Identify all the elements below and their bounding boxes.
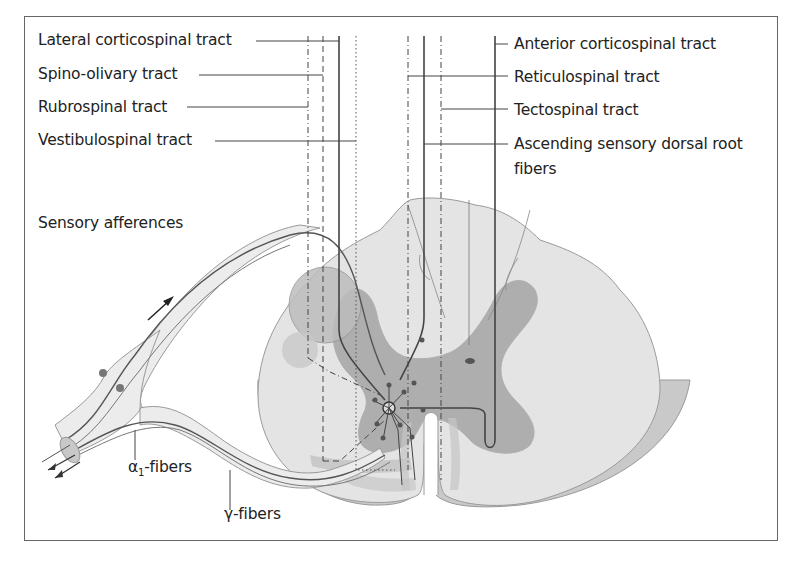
lateral-tract-region [289, 267, 361, 343]
ganglion-cell [99, 369, 107, 377]
label-tectospinal-tract: Tectospinal tract [514, 101, 638, 119]
label-reticulospinal-tract: Reticulospinal tract [514, 68, 659, 86]
leader-lines-right [408, 44, 508, 144]
leader-lines-left [187, 41, 356, 141]
label-ascending-sensory-dorsal-root: Ascending sensory dorsal root [514, 135, 743, 153]
alpha-suffix: -fibers [144, 458, 192, 476]
label-gamma-fibers: γ-fibers [224, 505, 281, 523]
label-spino-olivary-tract: Spino-olivary tract [38, 65, 177, 83]
label-sensory-afferences: Sensory afferences [38, 214, 183, 232]
label-vestibulospinal-tract: Vestibulospinal tract [38, 131, 192, 149]
anterior-median-fissure [424, 413, 438, 496]
alpha-symbol: α [128, 458, 138, 476]
label-rubrospinal-tract: Rubrospinal tract [38, 98, 167, 116]
label-ascending-sensory-fibers: fibers [514, 160, 556, 178]
central-canal [465, 358, 475, 364]
label-anterior-corticospinal-tract: Anterior corticospinal tract [514, 35, 716, 53]
rubrospinal-region [282, 332, 318, 368]
ganglion-cell [116, 384, 124, 392]
label-lateral-corticospinal-tract: Lateral corticospinal tract [38, 31, 232, 49]
label-alpha-fibers: α1-fibers [128, 458, 192, 482]
spinal-cord-diagram [0, 0, 793, 561]
